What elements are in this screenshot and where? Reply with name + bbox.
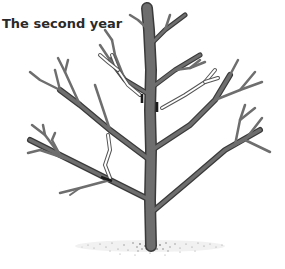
tree-branches — [28, 5, 270, 246]
branch-middle-left — [60, 90, 150, 160]
tree-illustration — [0, 0, 285, 269]
tree-outline — [30, 8, 260, 246]
